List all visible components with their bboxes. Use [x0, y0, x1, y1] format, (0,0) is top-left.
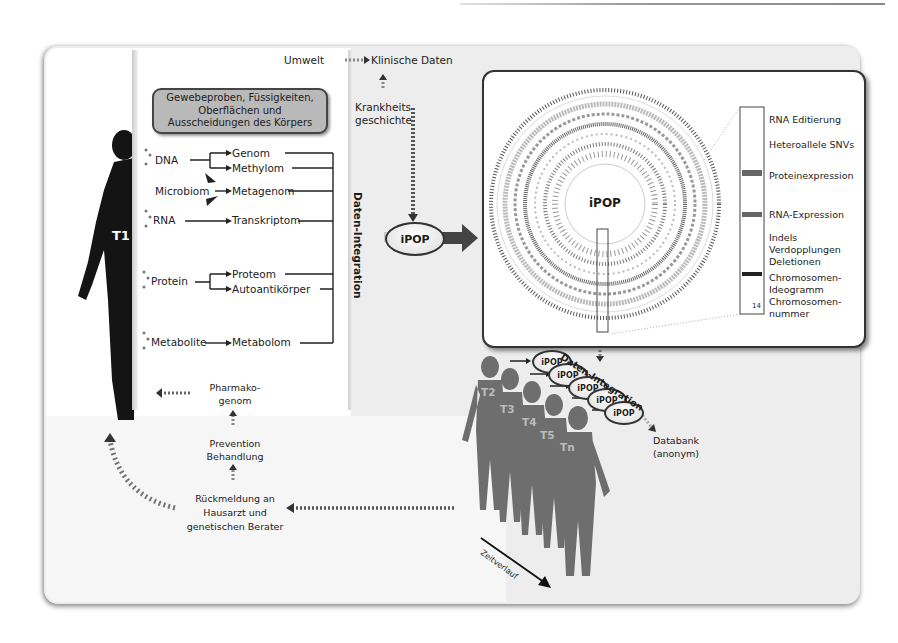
subject-label-t5: T5: [540, 429, 554, 441]
label-feedback-2: Hausarzt und: [183, 508, 287, 519]
label-feedback-1: Rückmeldung an: [183, 494, 287, 505]
label-feedback-3: genetischen Berater: [183, 522, 287, 533]
subject-label-t4: T4: [522, 416, 536, 428]
subject-label-tn: Tn: [560, 441, 575, 453]
subject-label-t2: T2: [481, 386, 495, 398]
subject-label-t3: T3: [500, 403, 514, 415]
label-treatment: Behandlung: [195, 452, 275, 463]
timeline-silhouettes-icon: [0, 0, 898, 643]
database-label-2: (anonym): [653, 449, 699, 460]
label-prevention: Prevention: [195, 439, 275, 450]
database-label-1: Databank: [653, 436, 699, 447]
label-pharmacogenome-1: Pharmako-: [205, 383, 265, 394]
label-pharmacogenome-2: genom: [205, 396, 265, 407]
